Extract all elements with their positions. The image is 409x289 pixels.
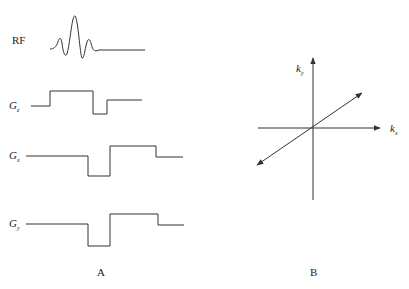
rf-label: RF — [12, 34, 25, 46]
ky-label: ky — [296, 62, 304, 76]
panel-a: RF Gz Gx Gy A — [9, 16, 184, 278]
panel-b-kspace: ky kx B — [257, 58, 398, 278]
pulse-sequence-diagram: RF Gz Gx Gy A ky kx B — [0, 0, 409, 289]
kx-label: kx — [390, 122, 398, 136]
gx-label: Gx — [9, 149, 20, 163]
gy-waveform — [26, 214, 184, 246]
kspace-trajectory-arrow — [257, 93, 362, 165]
rf-waveform — [50, 16, 145, 58]
gx-waveform — [26, 146, 183, 176]
gz-waveform — [31, 91, 142, 114]
gz-label: Gz — [9, 99, 20, 113]
gy-label: Gy — [9, 217, 20, 231]
panel-b-caption: B — [310, 266, 317, 278]
panel-a-caption: A — [97, 266, 105, 278]
